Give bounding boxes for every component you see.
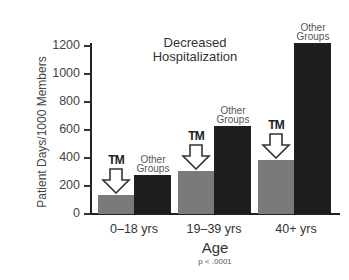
y-tick-label: 400 [40,150,80,164]
other-groups-label: OtherGroups [213,106,253,124]
chart-title: Decreased Hospitalization [120,36,270,64]
tm-label: TM [98,153,134,167]
bar-other-groups [134,175,171,214]
p-value-annotation: p < .0001 [175,257,255,266]
y-tick-label: 1200 [40,38,80,52]
y-tick-label: 200 [40,178,80,192]
bar-other-groups [214,126,251,214]
category-label-19-39: 19–39 yrs [174,222,254,236]
y-tick-mark [84,157,91,159]
bar-tm [98,195,134,214]
title-line-2: Hospitalization [120,50,270,64]
title-line-1: Decreased [120,36,270,50]
y-tick-mark [84,73,91,75]
y-tick-label: 600 [40,122,80,136]
y-tick-mark [84,185,91,187]
bar-tm [178,171,214,214]
tm-label: TM [178,129,214,143]
y-tick-mark [84,101,91,103]
y-tick-mark [84,129,91,131]
down-arrow-icon [261,133,291,159]
category-label-40plus: 40+ yrs [256,222,336,236]
y-tick-mark [84,45,91,47]
other-groups-label: OtherGroups [293,23,333,41]
y-tick-label: 0 [40,206,80,220]
y-tick-mark [84,213,91,215]
bar-other-groups [294,43,331,214]
tm-label: TM [258,118,294,132]
category-label-0-18: 0–18 yrs [94,222,174,236]
down-arrow-icon [181,144,211,170]
y-tick-label: 1000 [40,66,80,80]
y-tick-label: 800 [40,94,80,108]
other-groups-label: OtherGroups [133,155,173,173]
down-arrow-icon [101,168,131,194]
bar-tm [258,160,294,214]
x-axis-label: Age [175,239,255,256]
